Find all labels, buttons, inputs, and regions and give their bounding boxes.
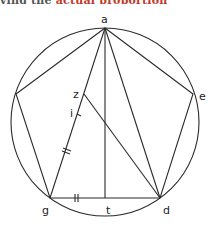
label-i: i (70, 107, 73, 120)
label-e: e (199, 90, 206, 103)
label-d: d (163, 204, 170, 217)
label-a: a (101, 13, 108, 26)
label-t: t (106, 204, 111, 217)
tick-i (77, 114, 81, 116)
geometry-figure: a e d g t z i (0, 0, 215, 227)
line-ad (105, 28, 160, 198)
line-ag (50, 28, 105, 198)
label-g: g (42, 204, 49, 217)
tick-marks-ag (62, 148, 71, 154)
label-z: z (73, 88, 79, 101)
line-zd (84, 94, 160, 198)
